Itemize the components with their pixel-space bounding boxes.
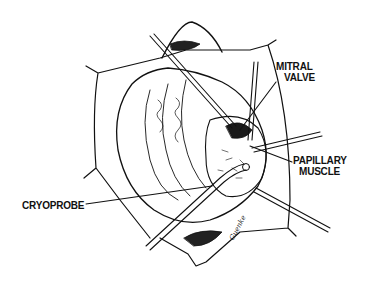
retractor-lower-right bbox=[254, 188, 330, 232]
cryoprobe-label: CRYOPROBE bbox=[22, 200, 84, 211]
papillary-muscle-label-line2: MUSCLE bbox=[293, 166, 347, 177]
papillary-muscle-label-line1: PAPILLARY bbox=[293, 155, 347, 166]
papillary-muscle-label: PAPILLARY MUSCLE bbox=[293, 155, 347, 177]
heart-outline bbox=[117, 68, 267, 222]
mitral-valve-label: MITRAL VALVE bbox=[276, 61, 315, 83]
mitral-valve-label-line1: MITRAL bbox=[276, 61, 315, 72]
leader-mitral bbox=[240, 82, 276, 130]
mitral-valve-label-line2: VALVE bbox=[276, 72, 315, 83]
leader-cryoprobe bbox=[86, 186, 212, 204]
bottom-tissue bbox=[184, 231, 222, 246]
heart-surgery-illustration bbox=[0, 0, 373, 288]
